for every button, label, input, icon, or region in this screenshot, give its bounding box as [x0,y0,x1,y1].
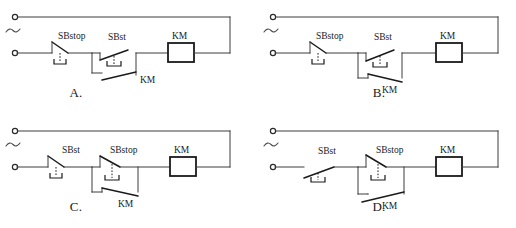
terminal-top [270,128,275,133]
km-holding-contact-blade[interactable] [368,74,402,82]
km-coil-box[interactable] [168,43,194,62]
option-c[interactable]: SBst SBstop KM KM C. [0,114,258,228]
diagram-sheet: SBstop SBst KM KM A. [0,0,516,228]
km-coil-label: KM [174,145,190,155]
option-b-label: B. [258,86,516,100]
terminal-top [270,14,275,19]
km-coil-box[interactable] [170,157,196,176]
km-holding-contact-label: KM [140,75,156,85]
option-a-label: A. [0,86,258,100]
sbstop-label: SBstop [316,31,344,41]
km-coil-label: KM [440,31,456,41]
km-coil-label: KM [440,145,456,155]
sbstop-blade[interactable] [310,42,326,53]
sbst-label: SBst [374,32,392,42]
sbst-label: SBst [318,146,336,156]
km-coil-box[interactable] [436,43,462,62]
sbstop-blade[interactable] [100,156,120,167]
sbstop-blade[interactable] [52,42,68,53]
km-holding-contact-blade[interactable] [102,188,138,196]
sbstop-blade[interactable] [366,155,386,167]
ac-source-icon [6,29,20,32]
ac-source-icon [264,143,278,146]
km-coil-label: KM [172,31,188,41]
sbstop-label: SBstop [376,145,404,155]
terminal-top [12,128,17,133]
sbst-label: SBst [108,32,126,42]
sbstop-label: SBstop [58,31,86,41]
sbst-blade[interactable] [48,156,64,167]
ac-source-icon [6,143,20,146]
terminal-top [12,14,17,19]
option-b[interactable]: SBstop SBst KM KM B. [258,0,516,114]
km-coil-box[interactable] [436,157,462,176]
option-a[interactable]: SBstop SBst KM KM A. [0,0,258,114]
sbst-label: SBst [62,145,80,155]
sbst-blade[interactable] [100,50,128,60]
ac-source-icon [264,29,278,32]
option-c-label: C. [0,200,258,214]
km-holding-contact-blade[interactable] [102,72,136,80]
sbstop-label: SBstop [110,145,138,155]
option-d-label: D. [258,200,516,214]
option-d[interactable]: SBst SBstop KM KM D. [258,114,516,228]
sbst-blade[interactable] [304,167,334,178]
